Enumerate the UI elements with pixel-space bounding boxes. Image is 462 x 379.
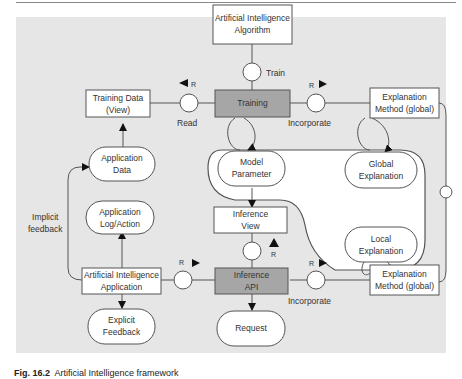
incorporate-bottom-label: Incorporate (288, 295, 331, 307)
caption-text: Artificial Intelligence framework (55, 368, 179, 378)
r-label: R (271, 249, 276, 261)
r-arrow-left-icon (179, 79, 188, 87)
label-line: Explicit (88, 314, 155, 326)
train-label: Train (266, 67, 285, 79)
ai-application-label: Artificial Intelligence Application (82, 269, 161, 293)
train-access-circle (243, 63, 261, 81)
label-line: Log/Action (86, 218, 154, 230)
label-line: API (215, 281, 288, 293)
explicit-feedback-label: Explicit Feedback (88, 314, 155, 338)
model-parameter-label: Model Parameter (218, 156, 285, 180)
training-label: Training (215, 97, 290, 109)
application-data-label: Application Data (89, 152, 155, 176)
inference-view-label: Inference View (214, 208, 287, 232)
figure-caption: Fig. 16.2 Artificial Intelligence framew… (14, 368, 179, 378)
label-line: Explanation (345, 170, 417, 182)
label-line: Inference (214, 208, 287, 220)
implicit-feedback-label: Implicit feedback (28, 211, 63, 235)
label-line: Method (global) (370, 280, 439, 292)
explanation-method-top-label: Explanation Method (global) (370, 91, 439, 115)
right-connector-circle (440, 186, 452, 198)
app-api-circle (174, 271, 192, 289)
label-line: Explanation (345, 245, 417, 257)
label-line: (View) (86, 104, 150, 116)
label-line: Application (86, 206, 154, 218)
r-label: R (179, 257, 184, 269)
label-line: Explanation (370, 268, 439, 280)
global-explanation-label: Global Explanation (345, 158, 417, 182)
label-line: Inference (215, 269, 288, 281)
training-data-label: Training Data (View) (86, 92, 150, 116)
r-label: R (309, 80, 314, 92)
label-line: Application (89, 152, 155, 164)
r-label: R (191, 79, 196, 91)
label-line: View (214, 220, 287, 232)
label-line: Artificial Intelligence (213, 12, 292, 24)
label-line: Method (global) (370, 103, 439, 115)
read-label: Read (177, 117, 197, 129)
label-line: feedback (28, 223, 63, 235)
r-arrow-right-icon (319, 80, 327, 88)
r-arrow-up-icon (269, 238, 279, 247)
label-line: Data (89, 164, 155, 176)
read-access-circle (180, 94, 198, 112)
request-label: Request (217, 322, 285, 334)
incorporate-top-label: Incorporate (288, 117, 331, 129)
label-line: Global (345, 158, 417, 170)
incorporate-bottom-circle (307, 271, 325, 289)
inference-view-circle (243, 242, 261, 260)
application-log-label: Application Log/Action (86, 206, 154, 230)
inference-api-label: Inference API (215, 269, 288, 293)
label-line: Training Data (86, 92, 150, 104)
r-arrow-right-icon (192, 259, 200, 267)
label-line: Parameter (218, 168, 285, 180)
label-line: Feedback (88, 326, 155, 338)
label-line: Artificial Intelligence (82, 269, 161, 281)
label-line: Algorithm (213, 24, 292, 36)
explanation-method-bottom-label: Explanation Method (global) (370, 268, 439, 292)
r-label: R (309, 258, 314, 270)
label-line: Explanation (370, 91, 439, 103)
label-line: Model (218, 156, 285, 168)
label-line: Application (82, 281, 161, 293)
local-explanation-label: Local Explanation (345, 233, 417, 257)
label-line: Local (345, 233, 417, 245)
caption-prefix: Fig. 16.2 (14, 368, 50, 378)
incorporate-top-circle (307, 94, 325, 112)
label-line: Implicit (28, 211, 63, 223)
ai-algorithm-label: Artificial Intelligence Algorithm (213, 12, 292, 36)
